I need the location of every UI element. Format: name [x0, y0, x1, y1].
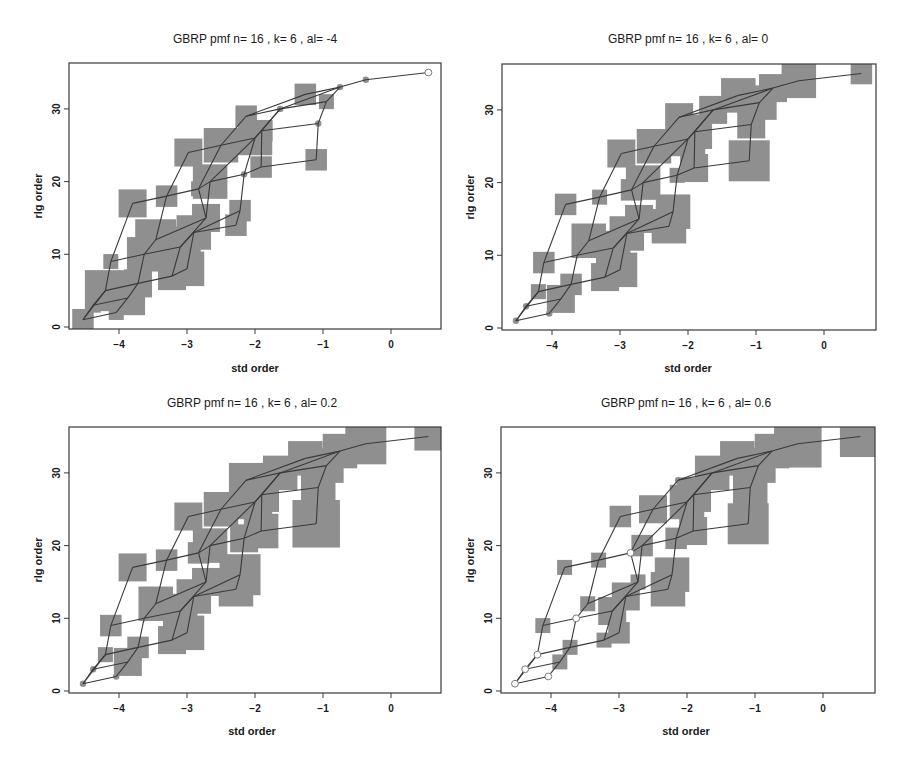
lattice-edge — [543, 567, 565, 625]
open-point-marker — [534, 651, 541, 658]
lattice-edge — [261, 495, 262, 531]
panel-al-neg4: GBRP pmf n= 16 , k= 6 , al= -4 −4−3−2−10… — [0, 0, 450, 380]
x-tick-label: 0 — [821, 340, 827, 351]
plot-area: −4−3−2−100102030 — [0, 380, 450, 764]
x-tick-label: −3 — [181, 703, 193, 714]
lattice-edge — [544, 204, 566, 262]
y-tick-label: 20 — [51, 176, 62, 188]
y-axis-label: rlg order — [464, 537, 476, 582]
y-tick-label: 10 — [484, 249, 495, 261]
x-tick-label: −4 — [113, 339, 125, 350]
y-axis-label: rlg order — [464, 174, 476, 219]
x-tick-label: −3 — [614, 340, 626, 351]
plot-content — [72, 69, 432, 330]
y-tick-label: 10 — [51, 248, 62, 260]
x-tick-label: −1 — [317, 703, 329, 714]
open-point-marker — [522, 666, 529, 673]
lattice-edge — [694, 132, 695, 168]
y-tick-label: 20 — [484, 177, 495, 189]
x-tick-label: −1 — [750, 340, 762, 351]
x-axis-label: std order — [662, 725, 710, 737]
open-point-marker — [545, 673, 552, 680]
point-marker — [851, 63, 873, 85]
y-tick-label: 30 — [484, 104, 495, 116]
y-tick-label: 30 — [51, 103, 62, 115]
x-tick-label: −2 — [249, 703, 261, 714]
y-axis-label: rlg order — [32, 537, 44, 582]
y-tick-label: 0 — [484, 325, 495, 331]
lattice-edge — [366, 73, 429, 80]
open-point-marker — [573, 615, 580, 622]
x-tick-label: −4 — [545, 703, 557, 714]
open-point-marker — [627, 549, 634, 556]
plot-content — [513, 63, 872, 324]
x-tick-label: 0 — [388, 339, 394, 350]
x-tick-label: −2 — [681, 703, 693, 714]
open-point-marker — [425, 69, 432, 76]
y-tick-label: 20 — [483, 540, 494, 552]
x-tick-label: −4 — [546, 340, 558, 351]
open-point-marker — [512, 680, 519, 687]
plot-area: −4−3−2−100102030 — [0, 0, 450, 380]
panel-al-0: GBRP pmf n= 16 , k= 6 , al= 0 −4−3−2−100… — [450, 0, 899, 380]
y-tick-label: 20 — [51, 540, 62, 552]
x-axis-label: std order — [231, 362, 279, 374]
x-tick-label: −3 — [613, 703, 625, 714]
lattice-edge — [693, 495, 694, 531]
x-tick-label: 0 — [388, 703, 394, 714]
y-tick-label: 30 — [483, 467, 494, 479]
y-tick-label: 0 — [51, 688, 62, 694]
y-tick-label: 30 — [51, 467, 62, 479]
plot-area: −4−3−2−100102030 — [450, 0, 899, 380]
x-tick-label: −2 — [682, 340, 694, 351]
y-tick-label: 10 — [51, 612, 62, 624]
x-tick-label: −4 — [113, 703, 125, 714]
panel-al-0.2: GBRP pmf n= 16 , k= 6 , al= 0.2 −4−3−2−1… — [0, 380, 450, 764]
x-tick-label: −3 — [181, 339, 193, 350]
lattice-edge — [246, 94, 305, 116]
y-axis-label: rlg order — [32, 173, 44, 218]
y-tick-label: 0 — [51, 324, 62, 330]
plot-area: −4−3−2−100102030 — [450, 380, 899, 764]
lattice-edge — [599, 517, 621, 561]
lattice-edge — [340, 80, 366, 87]
y-tick-label: 10 — [483, 612, 494, 624]
plot-content — [512, 416, 881, 687]
x-tick-label: −2 — [249, 339, 261, 350]
x-axis-label: std order — [228, 725, 276, 737]
x-axis-label: std order — [664, 362, 712, 374]
panel-al-0.6: GBRP pmf n= 16 , k= 6 , al= 0.6 −4−3−2−1… — [450, 380, 899, 764]
y-tick-label: 0 — [483, 688, 494, 694]
lattice-edge — [261, 131, 262, 167]
x-tick-label: −1 — [749, 703, 761, 714]
plot-content — [80, 423, 443, 687]
x-tick-label: −1 — [317, 339, 329, 350]
x-tick-label: 0 — [820, 703, 826, 714]
